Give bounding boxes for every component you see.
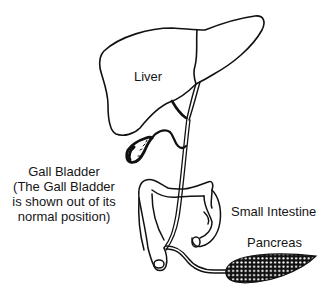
gall-bladder-note-line1: (The Gall Bladder	[2, 179, 126, 194]
gall-bladder-label: Gall Bladder (The Gall Bladder is shown …	[2, 164, 126, 224]
gall-bladder-title: Gall Bladder	[2, 164, 126, 179]
common-bile-duct	[164, 118, 190, 250]
pancreatic-duct	[166, 246, 228, 273]
gall-bladder-note-line3: normal position)	[2, 209, 126, 224]
small-intestine-label: Small Intestine	[231, 204, 316, 219]
hepatic-ducts	[172, 82, 200, 120]
pancreas	[226, 254, 316, 283]
liver-label: Liver	[134, 69, 162, 84]
small-intestine	[139, 180, 221, 271]
pancreas-label: Pancreas	[247, 235, 302, 250]
liver	[100, 16, 264, 135]
gall-bladder-note-line2: is shown out of its	[2, 194, 126, 209]
gall-bladder	[127, 130, 186, 162]
